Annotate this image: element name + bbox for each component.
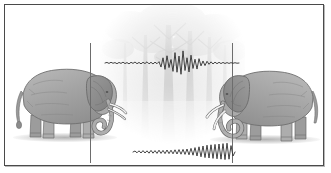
reference-line-left: [90, 43, 91, 163]
waveform-upper-trace: [105, 49, 239, 77]
figure-root: [0, 0, 331, 173]
waveform-lower-trace: [133, 141, 235, 163]
figure-plate: [5, 5, 323, 165]
